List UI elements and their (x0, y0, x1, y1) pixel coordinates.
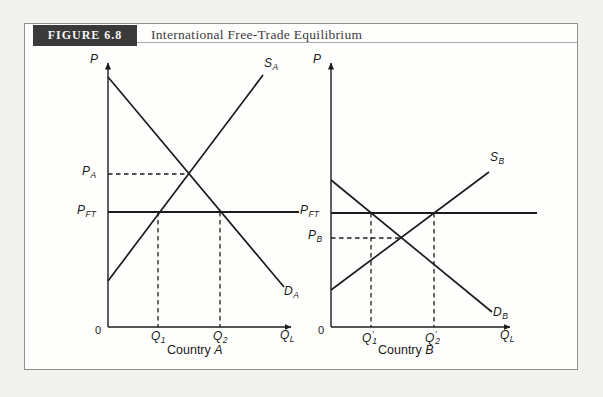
chart-country-b (331, 63, 537, 327)
demand-curve-country-a (108, 77, 284, 287)
textbook-figure-page: FIGURE 6.8 International Free-Trade Equi… (0, 0, 603, 397)
chart-country-a (108, 63, 299, 327)
supply-curve-country-b (331, 172, 489, 290)
equilibrium-charts-svg (0, 0, 603, 397)
demand-curve-country-b (331, 180, 492, 312)
